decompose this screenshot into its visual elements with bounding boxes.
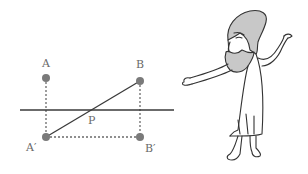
label-a: A (41, 57, 51, 70)
label-b-prime: B′ (145, 142, 156, 155)
beard-icon (225, 50, 254, 72)
philosopher-character (183, 11, 293, 160)
label-b: B (136, 58, 144, 71)
reflection-diagram: A B P A′ B′ (0, 0, 308, 174)
label-p: P (88, 114, 96, 127)
point-a-prime (42, 133, 50, 141)
label-a-prime: A′ (25, 141, 37, 154)
point-b-prime (136, 133, 144, 141)
segment-aprime-b (46, 81, 140, 137)
point-a (42, 74, 50, 82)
hair-icon (228, 11, 267, 54)
point-b (136, 77, 144, 85)
